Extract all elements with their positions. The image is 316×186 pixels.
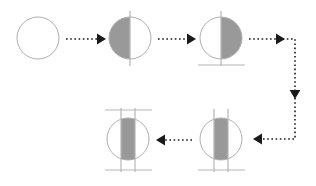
arrow-head-horizontal-segment: [276, 34, 285, 45]
arrow-stage1-to-stage2: [66, 34, 106, 45]
arrow-head: [187, 34, 196, 45]
arrow-stage4-to-stage5: [156, 135, 192, 146]
shaded-band: [121, 118, 135, 160]
stage-2-circle-left-shaded-with-axis: [109, 11, 151, 66]
arrow-stage2-to-stage3: [158, 34, 196, 45]
stage-3-circle-right-shaded-with-baseline: [198, 11, 245, 66]
shaded-left-half: [109, 17, 130, 59]
stage-1-empty-circle: [17, 17, 59, 59]
diagram-canvas: [0, 0, 316, 186]
arrow-stage3-to-stage4: [249, 34, 300, 145]
process-flow-diagram: Sequential construction of a circle diag…: [0, 0, 316, 186]
arrow-shaft: [249, 39, 295, 139]
stage-4-circle-band-shaded-with-baseline: [198, 109, 245, 172]
arrow-head-vertical-segment: [290, 90, 301, 99]
arrow-head: [97, 34, 106, 45]
stage-5-circle-band-shaded-with-baseline-and-topline: [105, 108, 152, 172]
shaded-right-half: [221, 17, 242, 59]
circle-outline: [17, 17, 59, 59]
arrow-head: [253, 134, 262, 145]
arrow-head: [156, 135, 165, 146]
shaded-band: [214, 118, 228, 160]
